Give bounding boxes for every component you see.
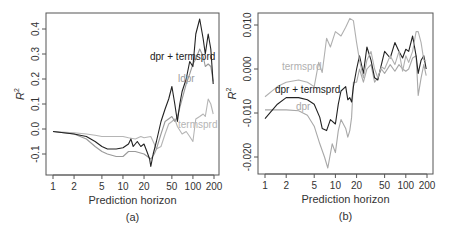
y-tick-label: -0.010 <box>242 98 253 127</box>
figure-two-panels: 125102050100200-0.10.00.10.20.30.4R2Pred… <box>0 0 452 230</box>
x-axis-label: Prediction horizon <box>88 194 176 206</box>
panel-label: (a) <box>126 211 139 223</box>
y-tick-label: 0.4 <box>30 22 41 36</box>
series-label: dpr + termsprd <box>150 51 215 62</box>
series-label: termsprd <box>178 119 217 130</box>
series-line-dpr <box>265 56 426 168</box>
x-tick-label: 1 <box>50 181 56 192</box>
plot-frame <box>46 13 219 175</box>
x-tick-label: 200 <box>419 180 436 191</box>
y-tick-label: -0.020 <box>242 142 253 171</box>
x-tick-label: 2 <box>283 180 289 191</box>
x-tick-label: 100 <box>185 181 202 192</box>
y-axis-label: R2 <box>225 87 238 99</box>
panel-label: (b) <box>339 210 352 222</box>
x-axis: 125102050100200 <box>50 175 223 192</box>
y-axis-label: R2 <box>13 88 26 100</box>
x-tick-label: 5 <box>311 180 317 191</box>
series-line-dpr-termsprd <box>53 19 213 167</box>
y-tick-label: 0.0 <box>30 122 41 136</box>
series-label: dpr + termsprd <box>275 84 340 95</box>
x-tick-label: 10 <box>330 180 342 191</box>
x-tick-label: 20 <box>138 181 150 192</box>
x-axis: 125102050100200 <box>262 174 436 191</box>
x-tick-label: 50 <box>166 181 178 192</box>
y-axis: -0.020-0.0100.0000.010 <box>242 12 258 171</box>
y-tick-label: 0.010 <box>242 12 253 37</box>
panel-a: 125102050100200-0.10.00.10.20.30.4R2Pred… <box>13 13 223 223</box>
x-tick-label: 100 <box>397 180 414 191</box>
panel-b: 125102050100200-0.020-0.0100.0000.010R2P… <box>225 12 436 222</box>
y-tick-label: 0.2 <box>30 72 41 86</box>
series-label: ldpr <box>178 73 195 84</box>
y-tick-label: -0.1 <box>30 145 41 163</box>
x-tick-label: 200 <box>206 181 223 192</box>
series-label: termsprd <box>282 61 321 72</box>
x-tick-label: 20 <box>351 180 363 191</box>
x-tick-label: 1 <box>262 180 268 191</box>
x-tick-label: 50 <box>379 180 391 191</box>
y-tick-label: 0.000 <box>242 56 253 81</box>
y-axis: -0.10.00.10.20.30.4 <box>30 22 46 163</box>
y-tick-label: 0.1 <box>30 97 41 111</box>
x-axis-label: Prediction horizon <box>301 193 389 205</box>
series-label: dpr <box>296 101 311 112</box>
x-tick-label: 5 <box>99 181 105 192</box>
y-tick-label: 0.3 <box>30 47 41 61</box>
x-tick-label: 2 <box>71 181 77 192</box>
x-tick-label: 10 <box>117 181 129 192</box>
